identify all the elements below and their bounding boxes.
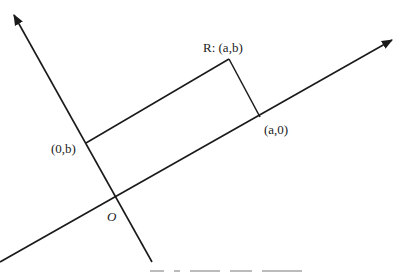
rect-edge-R-to-a0 [229,59,260,117]
clipped-caption [150,270,330,278]
axes-svg [0,0,402,278]
label-point-a0: (a,0) [264,123,288,136]
label-origin: O [107,210,116,223]
y-axis-line [14,15,152,262]
diagram-canvas: R: (a,b) (a,0) (0,b) O [0,0,402,278]
label-point-R: R: (a,b) [203,41,243,54]
rect-edge-0b-to-R [86,59,229,143]
label-point-0b: (0,b) [51,142,76,155]
